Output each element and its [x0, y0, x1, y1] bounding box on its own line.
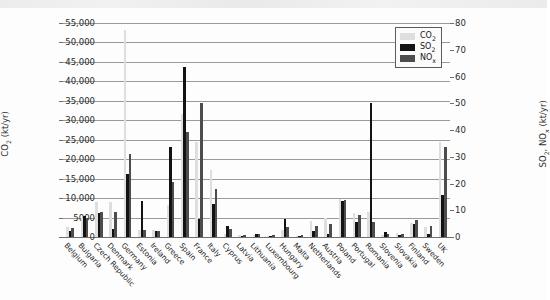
bar-group [264, 23, 278, 237]
bar-group [350, 23, 364, 237]
bar-group [307, 23, 321, 237]
bar-nox [329, 224, 332, 237]
y-axis-right-tick-label: 30 [455, 152, 466, 162]
x-axis-label-cell: UK [436, 239, 450, 299]
legend-label-so2: SO2 [420, 42, 435, 53]
bar-group [92, 23, 106, 237]
y-axis-right-tick-label: 40 [455, 125, 466, 135]
bar-group [278, 23, 292, 237]
bar-group [135, 23, 149, 237]
x-axis-label-cell: Austria [321, 239, 335, 299]
bar-nox [157, 231, 160, 237]
x-axis-label-cell: France [192, 239, 206, 299]
y-axis-right-title-so2: SO [538, 155, 548, 167]
bar-nox [86, 218, 89, 237]
legend-label-sub-co2: 2 [432, 35, 436, 42]
y-axis-left-tickmark [59, 237, 63, 238]
y-axis-right-tick-label: 10 [455, 205, 466, 215]
y-axis-right-tickmark [450, 103, 454, 104]
y-axis-left-title-sub: 2 [5, 140, 12, 144]
legend-label-sub-nox: x [432, 57, 436, 64]
bar-nox [186, 132, 189, 237]
x-axis-label-cell: Poland [335, 239, 349, 299]
legend-item-nox: NOx [400, 53, 436, 64]
bar-nox [215, 189, 218, 237]
bar-nox [258, 234, 261, 237]
y-axis-right-tick-label: 60 [455, 72, 466, 82]
bar-nox [430, 226, 433, 238]
bar-nox [129, 154, 132, 237]
legend-swatch-nox [400, 55, 415, 62]
legend-item-so2: SO2 [400, 42, 436, 53]
bar-group [321, 23, 335, 237]
y-axis-right-tick-label: 50 [455, 98, 466, 108]
bar-groups [63, 23, 450, 237]
bar-so2 [370, 103, 373, 237]
y-axis-right-tick-label: 70 [455, 45, 466, 55]
y-axis-right-tick-label: 20 [455, 179, 466, 189]
x-axis-label-cell: Czech Republic [92, 239, 106, 299]
legend-label-nox: NOx [420, 53, 436, 64]
y-axis-left-title: CO2 (kt/yr) [0, 84, 12, 184]
x-axis-label-cell: Cyprus [221, 239, 235, 299]
x-axis-label-cell: Germany [120, 239, 134, 299]
x-axis-label-cell: Bulgaria [77, 239, 91, 299]
bar-group [221, 23, 235, 237]
x-axis-label-cell: Spain [178, 239, 192, 299]
y-axis-right-tickmark [450, 130, 454, 131]
x-axis-label-cell: Ireland [149, 239, 163, 299]
bar-nox [358, 215, 361, 237]
y-axis-left-title-main: CO [0, 144, 10, 157]
x-axis-label-cell: Sweden [421, 239, 435, 299]
bar-nox [415, 220, 418, 237]
legend-swatch-so2 [400, 44, 415, 51]
y-axis-right-title-so2-sub: 2 [543, 151, 550, 155]
x-axis-label-cell: Portugal [350, 239, 364, 299]
bar-nox [200, 103, 203, 237]
y-axis-right-title-sep: , NO [538, 133, 548, 151]
x-axis-label-cell: Estonia [135, 239, 149, 299]
x-axis-label-cell: Greece [163, 239, 177, 299]
bar-nox [172, 182, 175, 237]
x-axis-label-cell: Slovenia [378, 239, 392, 299]
chart-legend: CO2SO2NOx [395, 27, 442, 68]
y-axis-right-tickmark [450, 184, 454, 185]
x-axis-label-cell: Finland [407, 239, 421, 299]
x-axis-label-cell: Slovakia [393, 239, 407, 299]
bar-group [292, 23, 306, 237]
x-axis-label-cell: Hungary [278, 239, 292, 299]
bar-nox [401, 234, 404, 237]
y-axis-right-tickmark [450, 77, 454, 78]
bar-group [206, 23, 220, 237]
legend-label-sub-so2: 2 [431, 46, 435, 53]
x-axis-label-cell: Romania [364, 239, 378, 299]
bar-group [178, 23, 192, 237]
bar-group [77, 23, 91, 237]
y-axis-right-tickmark [450, 50, 454, 51]
x-axis-baseline [63, 237, 450, 238]
legend-item-co2: CO2 [400, 31, 436, 42]
bar-nox [301, 235, 304, 237]
bar-nox [286, 227, 289, 237]
bar-nox [272, 235, 275, 237]
y-axis-right-tick-label: 0 [455, 232, 460, 242]
x-axis-label-cell: Lithuania [249, 239, 263, 299]
x-axis-labels: BelgiumBulgariaCzech RepublicDenmarkGerm… [63, 239, 450, 299]
legend-swatch-co2 [400, 33, 415, 40]
x-axis-label-cell: Belgium [63, 239, 77, 299]
x-axis-label-cell: Denmark [106, 239, 120, 299]
bar-nox [114, 212, 117, 237]
x-axis-label-cell: Netherlands [307, 239, 321, 299]
bar-group [120, 23, 134, 237]
x-axis-label: UK [435, 241, 449, 255]
bar-nox [71, 228, 74, 237]
bar-nox [229, 229, 232, 237]
y-axis-right-title-nox-sub: x [543, 129, 550, 133]
bar-nox [143, 230, 146, 237]
y-axis-right-tickmark [450, 210, 454, 211]
bar-group [364, 23, 378, 237]
bar-group [192, 23, 206, 237]
bar-nox [344, 200, 347, 237]
bar-nox [315, 226, 318, 237]
